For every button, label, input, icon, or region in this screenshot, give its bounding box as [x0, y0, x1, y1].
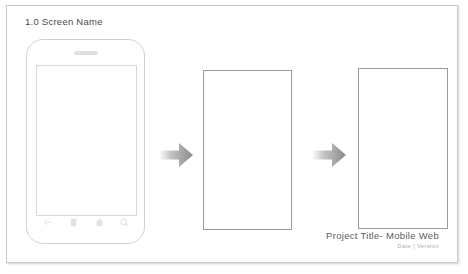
screen-frame-2[interactable] [203, 70, 292, 230]
device-screen-area[interactable] [36, 65, 137, 216]
wireframe-slide-canvas: 1.0 Screen Name [6, 5, 458, 263]
speaker-grille-icon [74, 51, 98, 55]
project-title: Project Title- Mobile Web [326, 230, 439, 241]
device-nav-bar [36, 213, 137, 231]
mobile-device-mockup[interactable] [26, 39, 145, 244]
screen-frame-3[interactable] [358, 68, 448, 229]
flow-arrow-1 [159, 142, 193, 168]
project-caption: Project Title- Mobile Web Date | Version [326, 230, 439, 249]
flow-arrow-2 [312, 142, 346, 168]
home-icon[interactable] [94, 217, 105, 228]
project-date-version: Date | Version [326, 243, 439, 249]
back-arrow-icon[interactable] [43, 217, 54, 228]
page-title: 1.0 Screen Name [25, 16, 103, 27]
menu-icon[interactable] [68, 217, 79, 228]
search-icon[interactable] [119, 217, 130, 228]
